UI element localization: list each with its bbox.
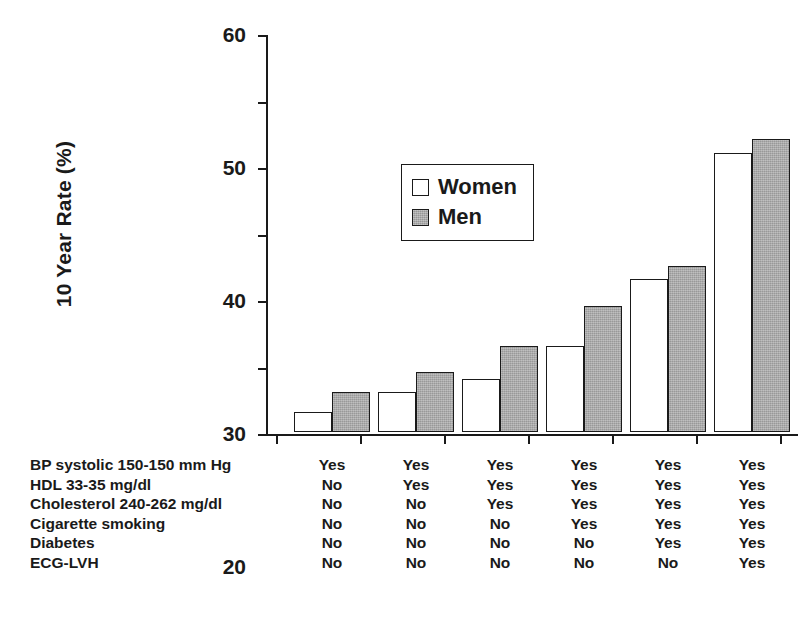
risk-factor-table: BP systolic 150-150 mm HgYesYesYesYesYes… [0, 455, 812, 572]
factor-cell: No [470, 533, 530, 553]
factor-row: Cholesterol 240-262 mg/dlNoNoYesYesYesYe… [0, 494, 812, 514]
factor-cell: No [302, 494, 362, 514]
x-axis-line [266, 434, 798, 436]
factor-row: DiabetesNoNoNoNoYesYes [0, 533, 812, 553]
x-tick-mark [444, 436, 446, 444]
factor-cell: No [386, 514, 446, 534]
factor-cell: Yes [722, 553, 782, 573]
y-tick-mark: 10 [258, 368, 266, 370]
factor-cell: Yes [638, 514, 698, 534]
y-tick-mark: 60 [258, 35, 266, 37]
bar-women-group-3 [462, 379, 500, 432]
bar-men-group-2 [416, 372, 454, 432]
legend-label-women: Women [438, 176, 517, 198]
factor-cell: Yes [638, 455, 698, 475]
legend-item-women: Women [412, 172, 517, 202]
factor-cell: No [386, 553, 446, 573]
factor-cell: No [554, 553, 614, 573]
factor-cell: Yes [722, 455, 782, 475]
y-axis-line [266, 35, 268, 436]
factor-cell: Yes [638, 475, 698, 495]
factor-cell: Yes [638, 494, 698, 514]
factor-cell: Yes [722, 514, 782, 534]
factor-cell: Yes [722, 494, 782, 514]
factor-label: BP systolic 150-150 mm Hg [30, 455, 231, 475]
factor-cell: Yes [386, 455, 446, 475]
y-tick-label: 40 [223, 289, 246, 313]
factor-row: BP systolic 150-150 mm HgYesYesYesYesYes… [0, 455, 812, 475]
x-tick-mark [780, 436, 782, 444]
factor-cell: Yes [470, 475, 530, 495]
y-tick-label: 60 [223, 23, 246, 47]
bar-women-group-6 [714, 153, 752, 432]
y-tick-mark: 0 [258, 434, 266, 436]
x-tick-mark [360, 436, 362, 444]
legend-swatch-women-icon [412, 179, 429, 196]
legend-swatch-men-icon [412, 209, 429, 226]
bar-men-group-4 [584, 306, 622, 432]
factor-cell: Yes [554, 455, 614, 475]
factor-cell: Yes [554, 494, 614, 514]
factor-cell: No [554, 533, 614, 553]
factor-cell: No [470, 553, 530, 573]
bar-men-group-5 [668, 266, 706, 432]
risk-factor-bar-chart-figure: 10 Year Rate (%) 0102030405060 Women Men… [0, 0, 812, 625]
x-tick-mark [276, 436, 278, 444]
factor-cell: No [386, 494, 446, 514]
bar-women-group-1 [294, 412, 332, 432]
factor-row: HDL 33-35 mg/dlNoYesYesYesYesYes [0, 475, 812, 495]
factor-cell: Yes [302, 455, 362, 475]
y-tick-mark: 50 [258, 102, 266, 104]
factor-cell: No [302, 533, 362, 553]
plot-area: 0102030405060 Women Men [266, 35, 796, 434]
factor-cell: Yes [470, 455, 530, 475]
factor-cell: No [638, 553, 698, 573]
x-tick-mark [612, 436, 614, 444]
factor-cell: Yes [554, 475, 614, 495]
bar-men-group-3 [500, 346, 538, 432]
factor-cell: No [302, 514, 362, 534]
factor-cell: Yes [722, 533, 782, 553]
factor-row: ECG-LVHNoNoNoNoNoYes [0, 553, 812, 573]
chart-legend: Women Men [401, 164, 534, 241]
factor-cell: Yes [722, 475, 782, 495]
factor-cell: No [302, 553, 362, 573]
bar-men-group-1 [332, 392, 370, 432]
factor-cell: No [386, 533, 446, 553]
factor-label: ECG-LVH [30, 553, 99, 573]
y-tick-mark: 40 [258, 168, 266, 170]
legend-label-men: Men [438, 206, 482, 228]
factor-cell: Yes [638, 533, 698, 553]
legend-item-men: Men [412, 202, 517, 232]
bar-women-group-5 [630, 279, 668, 432]
factor-cell: No [302, 475, 362, 495]
factor-cell: Yes [386, 475, 446, 495]
y-tick-mark: 30 [258, 235, 266, 237]
y-tick-mark: 20 [258, 301, 266, 303]
factor-label: Diabetes [30, 533, 95, 553]
factor-row: Cigarette smokingNoNoNoYesYesYes [0, 514, 812, 534]
factor-label: Cholesterol 240-262 mg/dl [30, 494, 222, 514]
factor-label: HDL 33-35 mg/dl [30, 475, 151, 495]
factor-cell: Yes [470, 494, 530, 514]
y-axis-title: 10 Year Rate (%) [52, 94, 76, 354]
bar-women-group-4 [546, 346, 584, 432]
factor-label: Cigarette smoking [30, 514, 165, 534]
y-tick-label: 30 [223, 422, 246, 446]
factor-cell: Yes [554, 514, 614, 534]
y-tick-label: 50 [223, 156, 246, 180]
factor-cell: No [470, 514, 530, 534]
bar-men-group-6 [752, 139, 790, 432]
x-tick-mark [696, 436, 698, 444]
bar-women-group-2 [378, 392, 416, 432]
x-tick-mark [528, 436, 530, 444]
